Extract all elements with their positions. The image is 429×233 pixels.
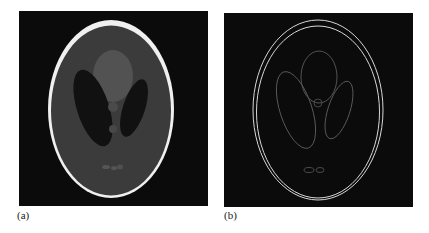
phantom-image [19,11,208,206]
panel-label-b: (b) [224,210,237,221]
edge-map-image [224,13,413,207]
figure-panel-a [19,11,208,206]
panel-label-a: (a) [17,210,29,221]
figure-panel-b [224,13,413,207]
